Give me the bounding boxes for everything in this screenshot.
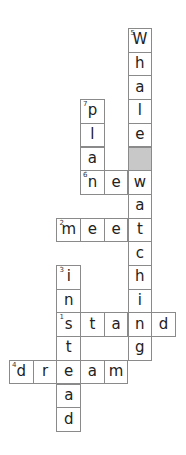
clue-number: 7	[83, 101, 87, 108]
cell-letter: g	[135, 340, 145, 355]
cell-letter: a	[135, 198, 144, 213]
cell-letter: n	[88, 175, 98, 190]
crossword-cell[interactable]: t	[80, 312, 105, 337]
cell-letter: a	[112, 317, 121, 332]
clue-number: 5	[131, 30, 135, 37]
crossword-cell[interactable]: r	[33, 360, 58, 385]
crossword-cell[interactable]: n	[128, 312, 153, 337]
cell-letter: n	[64, 293, 74, 308]
cell-letter: t	[66, 340, 72, 355]
cell-letter: e	[64, 364, 73, 379]
crossword-cell[interactable]: 4d	[9, 360, 34, 385]
crossword-cell[interactable]: e	[104, 218, 129, 243]
cell-letter: a	[88, 151, 97, 166]
crossword-cell[interactable]: l	[128, 99, 153, 124]
cell-letter: n	[135, 317, 145, 332]
crossword-cell[interactable]: c	[128, 241, 153, 266]
crossword-cell[interactable]: m	[104, 360, 129, 385]
crossword-cell[interactable]: 1s	[56, 312, 81, 337]
crossword-cell[interactable]: 3i	[56, 265, 81, 290]
crossword-grid: 5Wha7pllea6newa2meetc3ihni1standtg4dream…	[0, 0, 186, 455]
clue-number: 4	[12, 362, 16, 369]
cell-letter: w	[134, 175, 146, 190]
cell-letter: e	[112, 222, 121, 237]
crossword-cell[interactable]: e	[128, 123, 153, 148]
crossword-cell[interactable]: d	[151, 312, 176, 337]
cell-letter: h	[135, 56, 145, 71]
cell-letter: e	[112, 175, 121, 190]
crossword-cell[interactable]: a	[128, 194, 153, 219]
crossword-cell[interactable]: h	[128, 265, 153, 290]
crossword-cell[interactable]: w	[128, 170, 153, 195]
crossword-cell[interactable]: e	[80, 218, 105, 243]
cell-letter: i	[67, 269, 71, 284]
cell-letter: t	[89, 317, 95, 332]
clue-number: 2	[59, 220, 63, 227]
crossword-cell[interactable]: 6n	[80, 170, 105, 195]
crossword-cell[interactable]: t	[56, 336, 81, 361]
cell-letter: s	[65, 317, 73, 332]
crossword-cell[interactable]: i	[128, 289, 153, 314]
crossword-cell[interactable]: e	[56, 360, 81, 385]
crossword-cell[interactable]: n	[56, 289, 81, 314]
cell-letter: l	[138, 103, 142, 118]
cell-letter: e	[88, 222, 97, 237]
crossword-cell[interactable]: t	[128, 218, 153, 243]
crossword-cell[interactable]: 5W	[128, 28, 153, 53]
crossword-cell[interactable]: l	[80, 123, 105, 148]
crossword-cell[interactable]: a	[80, 360, 105, 385]
cell-letter: p	[88, 103, 98, 118]
cell-letter: e	[135, 127, 144, 142]
clue-number: 6	[83, 172, 87, 179]
cell-letter: h	[135, 269, 145, 284]
cell-letter: t	[137, 222, 143, 237]
clue-number: 1	[59, 314, 63, 321]
crossword-cell[interactable]: 7p	[80, 99, 105, 124]
crossword-cell[interactable]: 2m	[56, 218, 81, 243]
cell-letter: m	[109, 364, 124, 379]
cell-letter: d	[17, 364, 27, 379]
cell-letter: l	[90, 127, 94, 142]
cell-letter: r	[42, 364, 48, 379]
crossword-cell[interactable]: h	[128, 52, 153, 77]
crossword-blocked-cell	[128, 147, 153, 172]
cell-letter: d	[64, 412, 74, 427]
crossword-cell[interactable]: a	[128, 75, 153, 100]
crossword-cell[interactable]: a	[80, 147, 105, 172]
clue-number: 3	[59, 267, 63, 274]
cell-letter: c	[136, 246, 144, 261]
cell-letter: i	[138, 293, 142, 308]
crossword-cell[interactable]: g	[128, 336, 153, 361]
cell-letter: a	[135, 80, 144, 95]
cell-letter: a	[64, 388, 73, 403]
crossword-cell[interactable]: a	[56, 384, 81, 409]
cell-letter: d	[159, 317, 169, 332]
crossword-cell[interactable]: a	[104, 312, 129, 337]
crossword-cell[interactable]: d	[56, 407, 81, 432]
cell-letter: a	[88, 364, 97, 379]
crossword-cell[interactable]: e	[104, 170, 129, 195]
